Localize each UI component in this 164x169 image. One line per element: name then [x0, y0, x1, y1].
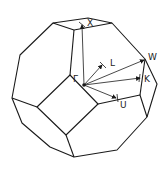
label-l: L: [110, 58, 115, 68]
label-w: W: [148, 52, 157, 62]
vector-gamma-x: [82, 25, 84, 85]
label-k: K: [144, 74, 151, 84]
outline: [12, 18, 157, 157]
brillouin-zone-diagram: Γ X L W K U: [0, 0, 164, 169]
vector-gamma-l: [84, 65, 102, 85]
label-u: U: [120, 100, 127, 110]
vector-gamma-u: [84, 85, 116, 98]
label-gamma: Γ: [73, 74, 78, 84]
label-x: X: [87, 18, 93, 28]
edge-left: [12, 98, 37, 107]
gamma-point: [82, 83, 86, 87]
edge-top-to-square: [70, 30, 74, 75]
truncated-octahedron: [12, 18, 157, 157]
